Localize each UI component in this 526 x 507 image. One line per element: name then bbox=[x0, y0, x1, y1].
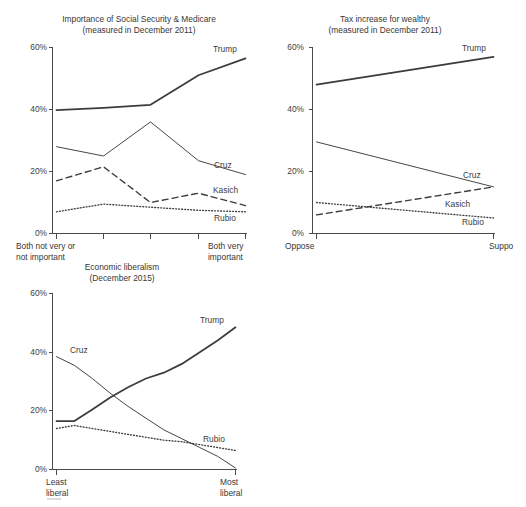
page-artifact-mark bbox=[47, 498, 61, 500]
y-tick-label-60: 60% bbox=[273, 42, 304, 52]
y-tick-label-0: 0% bbox=[13, 228, 47, 238]
y-tick-label-0: 0% bbox=[273, 228, 304, 238]
axis-spines bbox=[53, 48, 247, 234]
x-caption-left: Oppose bbox=[285, 241, 314, 252]
series-label-rubio: Rubio bbox=[462, 217, 484, 227]
y-tick-label-20: 20% bbox=[273, 166, 304, 176]
y-tick-label-20: 20% bbox=[13, 405, 47, 415]
x-caption-left-line1: Both not very or bbox=[16, 241, 75, 252]
x-caption-right-line2: important bbox=[208, 252, 243, 263]
panel-social-security-medicare: Importance of Social Security & Medicare… bbox=[14, 14, 264, 264]
y-tick-label-60: 60% bbox=[13, 42, 47, 52]
y-tick-label-40: 40% bbox=[13, 347, 47, 357]
x-caption-left-line2: not important bbox=[16, 252, 65, 263]
series-label-trump: Trump bbox=[462, 43, 486, 53]
y-axis-ticks bbox=[49, 48, 53, 234]
series-line-trump bbox=[57, 327, 236, 421]
series-label-cruz: Cruz bbox=[214, 160, 232, 170]
series-label-cruz: Cruz bbox=[463, 170, 481, 180]
series-label-rubio: Rubio bbox=[214, 213, 236, 223]
plot-area-3 bbox=[14, 262, 264, 507]
x-caption-right-line1: Most bbox=[220, 477, 238, 488]
x-caption-right-line1: Both very bbox=[208, 241, 243, 252]
series-line-rubio bbox=[57, 204, 246, 212]
y-tick-label-40: 40% bbox=[13, 104, 47, 114]
x-caption-left-line1: Least bbox=[46, 477, 67, 488]
y-tick-label-0: 0% bbox=[13, 464, 47, 474]
series-label-trump: Trump bbox=[200, 315, 224, 325]
x-caption-left-line2: liberal bbox=[46, 488, 68, 499]
y-axis-ticks bbox=[309, 48, 313, 234]
x-caption-right-line2: liberal bbox=[220, 488, 242, 499]
y-axis-ticks bbox=[49, 294, 53, 470]
series-line-cruz bbox=[57, 357, 236, 468]
figure-root: Importance of Social Security & Medicare… bbox=[0, 0, 526, 507]
panel-economic-liberalism: Economic liberalism (December 2015) 60% … bbox=[14, 262, 264, 507]
series-line-cruz bbox=[317, 142, 494, 187]
series-label-kasich: Kasich bbox=[213, 185, 238, 195]
series-line-trump bbox=[57, 58, 246, 110]
y-tick-label-40: 40% bbox=[273, 104, 304, 114]
panel-tax-increase-wealthy: Tax increase for wealthy (measured in De… bbox=[277, 14, 526, 264]
plot-area-2 bbox=[277, 14, 526, 264]
x-axis-ticks bbox=[57, 470, 236, 475]
series-label-rubio: Rubio bbox=[203, 434, 225, 444]
series-label-trump: Trump bbox=[213, 44, 237, 54]
y-tick-label-20: 20% bbox=[13, 166, 47, 176]
x-axis-ticks bbox=[57, 234, 246, 239]
y-tick-label-60: 60% bbox=[13, 288, 47, 298]
series-label-kasich: Kasich bbox=[445, 199, 470, 209]
series-label-cruz: Cruz bbox=[70, 345, 88, 355]
x-caption-right: Suppo bbox=[489, 241, 513, 252]
x-axis-ticks bbox=[317, 234, 494, 239]
series-line-trump bbox=[317, 57, 494, 85]
